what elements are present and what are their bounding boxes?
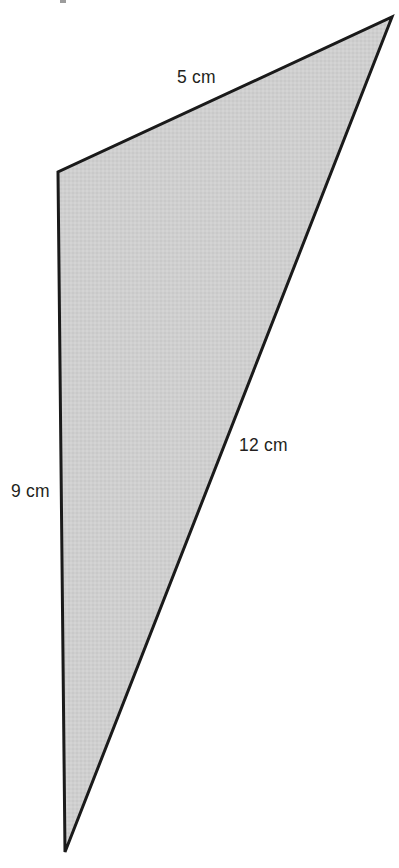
triangle-polygon: [58, 17, 392, 852]
side-label-top: 5 cm: [177, 69, 216, 87]
scan-artifact: [60, 0, 66, 3]
triangle-shape: [0, 0, 399, 868]
side-label-right: 12 cm: [239, 437, 288, 455]
side-label-left: 9 cm: [11, 483, 50, 501]
triangle-figure: 5 cm 12 cm 9 cm: [0, 0, 399, 868]
